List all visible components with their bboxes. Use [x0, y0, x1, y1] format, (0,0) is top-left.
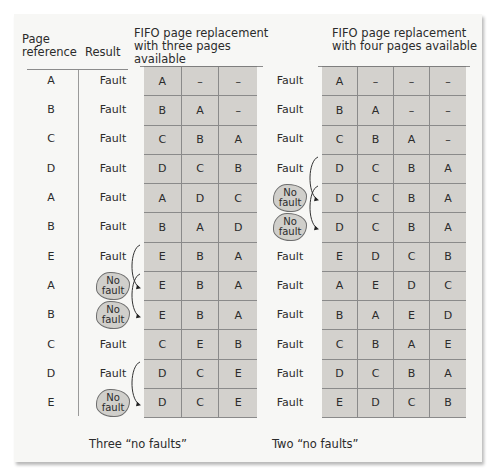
- frame-cell: A: [219, 243, 257, 272]
- page-reference: B: [31, 103, 71, 116]
- frame-cell: C: [358, 155, 394, 184]
- page-reference: D: [31, 162, 71, 175]
- curved-arrow-icon: [126, 360, 148, 409]
- result-label: Fault: [85, 162, 141, 175]
- frame-cell: D: [182, 184, 220, 213]
- frame-cell: D: [144, 389, 182, 418]
- result-label: Fault: [262, 367, 318, 380]
- no-fault-badge: Nofault: [273, 184, 307, 212]
- page-reference: B: [31, 220, 71, 233]
- frame-cell: A: [430, 360, 466, 389]
- frame-cell: D: [219, 213, 257, 242]
- frame-cell: A: [430, 184, 466, 213]
- header-three-pages: FIFO page replacement with three pages a…: [134, 27, 274, 66]
- page-reference: E: [31, 396, 71, 409]
- result-label: Fault: [262, 396, 318, 409]
- frame-cell: B: [430, 389, 466, 418]
- frame-cell: D: [144, 360, 182, 389]
- frame-cell: B: [394, 213, 430, 242]
- frame-cell: B: [322, 96, 358, 125]
- result-label: Fault: [85, 338, 141, 351]
- frame-cell: B: [182, 243, 220, 272]
- frame-cell: A: [358, 301, 394, 330]
- result-label: Fault: [262, 74, 318, 87]
- frame-cell: E: [322, 389, 358, 418]
- caption-four: Two “no faults”: [272, 437, 359, 451]
- frame-cell: E: [219, 389, 257, 418]
- column-divider: [78, 70, 79, 416]
- frame-cell: D: [322, 360, 358, 389]
- result-label: Fault: [85, 103, 141, 116]
- frame-cell: D: [322, 184, 358, 213]
- frame-cell: –: [182, 67, 220, 96]
- frame-cell: E: [394, 301, 430, 330]
- no-fault-badge-line2: fault: [279, 227, 302, 238]
- frame-cell: C: [394, 243, 430, 272]
- frame-cell: B: [219, 330, 257, 359]
- frame-cell: B: [144, 213, 182, 242]
- page-reference: A: [31, 74, 71, 87]
- result-label: Fault: [85, 132, 141, 145]
- frame-cell: C: [182, 389, 220, 418]
- frame-cell: E: [322, 243, 358, 272]
- frame-cell: D: [394, 272, 430, 301]
- frame-cell: A: [430, 155, 466, 184]
- frame-cell: C: [322, 330, 358, 359]
- frame-cell: –: [219, 67, 257, 96]
- frame-cell: C: [322, 126, 358, 155]
- frame-cell: E: [219, 360, 257, 389]
- frame-cell: C: [182, 155, 220, 184]
- frame-cell: A: [358, 96, 394, 125]
- frame-cell: –: [219, 96, 257, 125]
- frame-cell: B: [182, 126, 220, 155]
- frame-cell: B: [144, 96, 182, 125]
- frame-cell: C: [358, 184, 394, 213]
- frame-cell: E: [144, 243, 182, 272]
- frame-cell: A: [144, 67, 182, 96]
- page-reference: D: [31, 367, 71, 380]
- no-fault-badge-line2: fault: [102, 286, 125, 297]
- frame-cell: C: [219, 184, 257, 213]
- frame-cell: C: [394, 389, 430, 418]
- header-page-reference: Page reference: [22, 33, 82, 59]
- frame-cell: E: [144, 301, 182, 330]
- frame-cell: A: [322, 272, 358, 301]
- curved-arrow-icon: [304, 184, 326, 233]
- header-four-pages: FIFO page replacement with four pages av…: [332, 27, 482, 53]
- no-fault-badge: Nofault: [96, 272, 130, 300]
- no-fault-badge-line2: fault: [279, 198, 302, 209]
- frame-cell: –: [430, 67, 466, 96]
- frame-cell: B: [394, 184, 430, 213]
- result-label: Fault: [262, 338, 318, 351]
- result-label: Fault: [85, 74, 141, 87]
- result-label: Fault: [85, 191, 141, 204]
- frame-cell: B: [358, 330, 394, 359]
- frame-cell: C: [358, 360, 394, 389]
- header-page-reference-line2: reference: [22, 46, 82, 59]
- frame-cell: A: [182, 213, 220, 242]
- frame-cell: D: [322, 155, 358, 184]
- frame-cell: A: [219, 126, 257, 155]
- page-reference: A: [31, 191, 71, 204]
- page-reference: C: [31, 338, 71, 351]
- frame-cell: C: [358, 213, 394, 242]
- table-four-pages: A–––BA––CBA–DCBADCBADCBAEDCBAEDCBAEDCBAE…: [322, 66, 466, 418]
- result-label: Fault: [85, 220, 141, 233]
- frame-cell: D: [144, 155, 182, 184]
- frame-cell: B: [322, 301, 358, 330]
- result-label: Fault: [262, 103, 318, 116]
- frame-cell: B: [430, 243, 466, 272]
- frame-cell: –: [394, 96, 430, 125]
- frame-cell: D: [358, 243, 394, 272]
- no-fault-badge-line2: fault: [102, 403, 125, 414]
- result-label: Fault: [262, 250, 318, 263]
- frame-cell: D: [430, 301, 466, 330]
- result-label: Fault: [262, 279, 318, 292]
- frame-cell: –: [430, 96, 466, 125]
- frame-cell: E: [182, 330, 220, 359]
- header-four-line2: with four pages available: [332, 40, 482, 53]
- frame-cell: A: [182, 96, 220, 125]
- frame-cell: E: [144, 272, 182, 301]
- frame-cell: E: [430, 330, 466, 359]
- frame-cell: –: [358, 67, 394, 96]
